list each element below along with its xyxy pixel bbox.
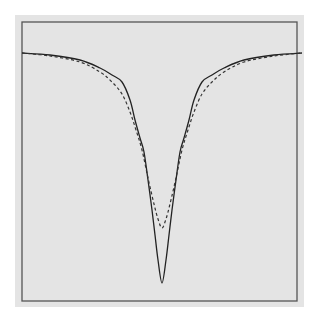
line-chart bbox=[0, 0, 316, 317]
plot-frame bbox=[22, 22, 297, 301]
solid-line-series bbox=[22, 53, 302, 283]
figure-caption bbox=[16, 311, 306, 317]
dashed-line-series bbox=[22, 53, 302, 228]
